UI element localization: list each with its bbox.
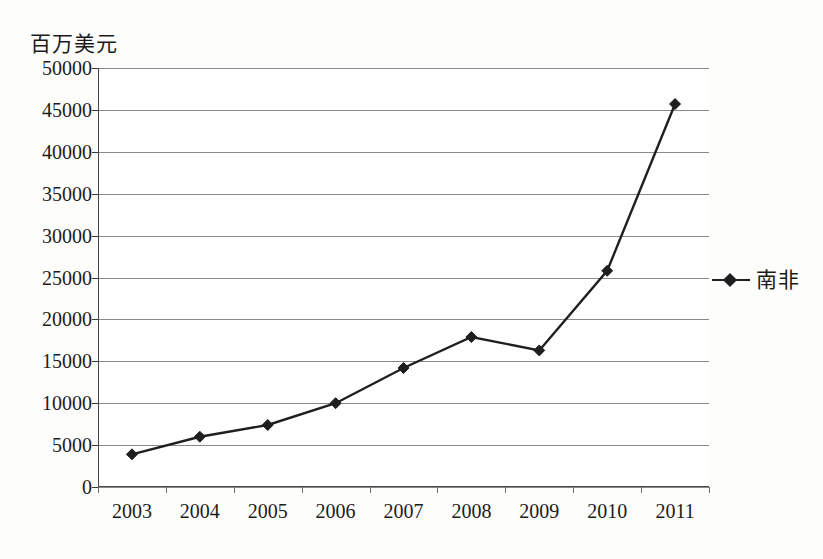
y-axis-tick-label: 35000	[42, 184, 92, 204]
legend-line-swatch	[712, 273, 750, 287]
data-point-marker	[398, 363, 409, 374]
chart-legend: 南非	[712, 268, 800, 292]
x-axis-tick-mark	[166, 487, 167, 493]
x-axis-tick-label: 2011	[635, 500, 715, 522]
y-axis-tick-label: 45000	[42, 100, 92, 120]
series-marker-group-south-africa	[126, 99, 680, 460]
y-axis-tick-label: 0	[82, 477, 92, 497]
y-axis-tick-label: 20000	[42, 309, 92, 329]
data-point-marker	[466, 332, 477, 343]
y-axis-tick-label: 30000	[42, 226, 92, 246]
x-axis-tick-mark	[437, 487, 438, 493]
data-point-marker	[126, 449, 137, 460]
x-axis-tick-mark	[709, 487, 710, 493]
x-axis-tick-mark	[302, 487, 303, 493]
x-axis-tick-mark	[641, 487, 642, 493]
y-axis-tick-label: 40000	[42, 142, 92, 162]
y-axis-tick-label-group: 0500010000150002000025000300003500040000…	[0, 0, 92, 559]
series-line-south-africa	[132, 104, 675, 454]
data-point-marker	[330, 398, 341, 409]
gridline	[98, 487, 709, 488]
legend-item-south-africa[interactable]: 南非	[712, 268, 800, 292]
x-axis-tick-mark	[573, 487, 574, 493]
data-point-marker	[670, 99, 681, 110]
data-point-marker	[262, 419, 273, 430]
plot-area	[98, 68, 709, 487]
x-axis-tick-mark	[370, 487, 371, 493]
x-axis-tick-mark	[505, 487, 506, 493]
series-layer	[98, 68, 709, 487]
legend-label: 南非	[756, 268, 800, 292]
y-axis-tick-label: 50000	[42, 58, 92, 78]
y-axis-tick-label: 15000	[42, 351, 92, 371]
chart-page: 百万美元 05000100001500020000250003000035000…	[0, 0, 823, 559]
x-axis-tick-mark	[98, 487, 99, 493]
data-point-marker	[194, 431, 205, 442]
y-axis-tick-label: 25000	[42, 268, 92, 288]
x-axis-tick-mark	[234, 487, 235, 493]
diamond-marker-icon	[723, 273, 737, 287]
y-axis-tick-label: 10000	[42, 393, 92, 413]
y-axis-tick-label: 5000	[52, 435, 92, 455]
